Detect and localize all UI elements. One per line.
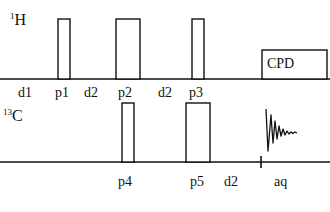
timing-label-d2: d2 <box>224 175 238 189</box>
carbon-channel <box>0 103 330 168</box>
cpd-decoupling-label: CPD <box>267 57 294 71</box>
pulse-p1 <box>58 19 70 79</box>
timing-label-p5: p5 <box>190 175 204 189</box>
timing-label-aq: aq <box>274 175 287 189</box>
proton-nucleus: H <box>15 11 27 28</box>
timing-label-p2: p2 <box>118 86 132 100</box>
timing-label-p1: p1 <box>55 86 69 100</box>
timing-label-p4: p4 <box>118 175 132 189</box>
timing-label-d2: d2 <box>158 86 172 100</box>
fid-signal-icon <box>266 109 297 151</box>
timing-label-p3: p3 <box>189 86 203 100</box>
pulse-p2 <box>116 19 140 79</box>
pulse-p5 <box>186 103 210 162</box>
proton-channel-label: 1H <box>10 8 26 28</box>
carbon-channel-label: 13C <box>3 104 23 124</box>
pulse-p3 <box>192 19 204 79</box>
timing-label-d2: d2 <box>84 86 98 100</box>
carbon-mass-number: 13 <box>3 107 12 117</box>
pulse-p4 <box>122 103 134 162</box>
carbon-nucleus: C <box>12 107 23 124</box>
timing-label-d1: d1 <box>18 86 32 100</box>
